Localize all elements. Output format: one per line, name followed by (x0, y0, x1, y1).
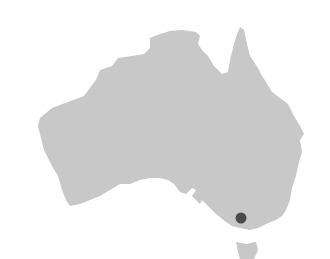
map-canvas (0, 0, 330, 259)
tasmania-shape (236, 242, 258, 259)
location-marker-icon[interactable] (236, 213, 247, 224)
mainland-australia-shape (38, 27, 304, 230)
australia-map: Location marker (0, 0, 330, 259)
